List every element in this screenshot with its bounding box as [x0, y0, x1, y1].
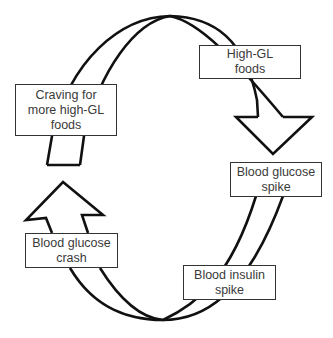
bottom-arc-inner: [100, 196, 256, 320]
node-craving: Craving for more high-GL foods: [15, 84, 117, 136]
up-arrowhead: [26, 182, 103, 233]
node-blood-glucose-spike: Blood glucose spike: [230, 162, 322, 197]
node-high-gl-foods: High-GL foods: [199, 45, 301, 79]
down-arrowhead: [236, 117, 312, 154]
glycemic-cycle-diagram: High-GL foods Blood glucose spike Blood …: [0, 0, 333, 338]
node-blood-glucose-crash: Blood glucose crash: [25, 233, 118, 268]
node-blood-insulin-spike: Blood insulin spike: [183, 265, 276, 300]
